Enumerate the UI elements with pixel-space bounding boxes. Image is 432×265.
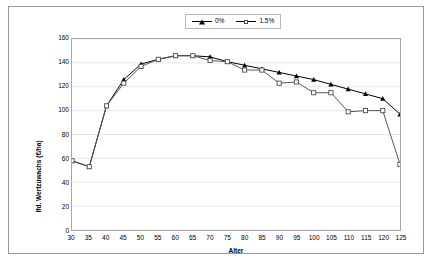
x-axis-tick-labels: 3035404550556065707580859095100105110115…	[71, 235, 401, 247]
y-axis-tick-label: 100	[58, 107, 69, 114]
legend-label-series-1: 0%	[215, 18, 224, 25]
legend-entry-series-1: 0%	[192, 18, 224, 25]
x-axis-title: Alter	[71, 247, 401, 254]
x-axis-tick-label: 95	[293, 235, 300, 242]
y-axis-tick-label: 160	[58, 35, 69, 42]
x-axis-tick-label: 100	[309, 235, 320, 242]
y-axis-tick-label: 60	[62, 156, 69, 163]
data-point-marker-square	[312, 91, 316, 95]
data-point-marker-square	[72, 159, 74, 163]
x-axis-tick-label: 110	[344, 235, 354, 242]
legend-label-series-2: 1.5%	[259, 18, 274, 25]
data-point-marker-square	[156, 57, 160, 61]
chart-figure-frame: 0% 1.5% lfd. Wertzuwachs (€/ha) 02040608…	[8, 6, 424, 254]
x-axis-tick-label: 70	[206, 235, 213, 242]
legend-line-sample	[236, 21, 256, 22]
x-axis-tick-label: 45	[119, 235, 126, 242]
legend-entry-series-2: 1.5%	[236, 18, 274, 25]
data-point-marker-square	[104, 104, 108, 108]
series-line-1.5%	[72, 56, 400, 167]
y-axis-tick-label: 20	[62, 204, 69, 211]
y-axis-tick-label: 120	[58, 83, 69, 90]
data-point-marker-square	[208, 58, 212, 62]
filled-triangle-icon	[199, 19, 205, 24]
x-axis-tick-label: 65	[189, 235, 196, 242]
x-axis-tick-label: 120	[378, 235, 389, 242]
y-axis-title-wrapper: lfd. Wertzuwachs (€/ha)	[23, 67, 37, 197]
data-point-marker-square	[294, 80, 298, 84]
y-axis-tick-label: 140	[58, 59, 69, 66]
x-axis-tick-label: 40	[102, 235, 109, 242]
data-point-marker-square	[225, 60, 229, 64]
x-axis-tick-label: 115	[361, 235, 371, 242]
x-axis-tick-label: 90	[276, 235, 283, 242]
x-axis-tick-label: 30	[67, 235, 74, 242]
data-point-marker-square	[381, 109, 385, 113]
y-axis-tick-labels: 020406080100120140160	[39, 33, 69, 236]
data-point-marker-square	[363, 109, 367, 113]
legend-line-sample	[192, 21, 212, 22]
x-axis-tick-label: 55	[154, 235, 161, 242]
x-axis-tick-label: 50	[137, 235, 144, 242]
gridlines	[72, 39, 400, 230]
data-point-marker-square	[191, 54, 195, 58]
y-axis-tick-label: 40	[62, 180, 69, 187]
x-axis-tick-label: 125	[396, 235, 407, 242]
series-group	[72, 53, 400, 169]
data-point-marker-square	[87, 165, 91, 169]
data-point-marker-square	[243, 68, 247, 72]
open-square-icon	[244, 20, 248, 24]
x-axis-tick-label: 35	[85, 235, 92, 242]
data-point-marker-square	[122, 81, 126, 85]
x-axis-tick-label: 105	[326, 235, 337, 242]
data-point-marker-square	[329, 91, 333, 95]
data-point-marker-square	[398, 162, 400, 166]
x-axis-tick-label: 85	[258, 235, 265, 242]
x-axis-tick-label: 60	[172, 235, 179, 242]
data-point-marker-square	[139, 64, 143, 68]
data-point-marker-square	[173, 54, 177, 58]
data-point-marker-square	[260, 68, 264, 72]
y-axis-tick-label: 80	[62, 132, 69, 139]
x-axis-tick-label: 75	[224, 235, 231, 242]
plot-svg	[72, 39, 400, 230]
x-axis-tick-label: 80	[241, 235, 248, 242]
chart-screenshot: 0% 1.5% lfd. Wertzuwachs (€/ha) 02040608…	[0, 0, 432, 265]
chart-legend: 0% 1.5%	[185, 14, 281, 29]
data-point-marker-square	[346, 110, 350, 114]
data-point-marker-square	[277, 81, 281, 85]
plot-area	[71, 38, 401, 231]
